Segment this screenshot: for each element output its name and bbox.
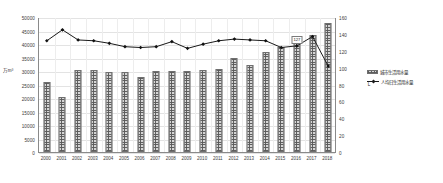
y-axis-left-tick-label: 40000 bbox=[0, 43, 35, 48]
x-axis-tick-label: 2001 bbox=[56, 156, 66, 161]
y-axis-left-tick-label: 25000 bbox=[0, 83, 35, 88]
chart-container: 万m³ L 0500010000150002000025000300003500… bbox=[0, 0, 443, 183]
line-swatch-icon bbox=[367, 79, 379, 84]
line-marker[interactable] bbox=[186, 47, 190, 51]
y-axis-left-tick-label: 35000 bbox=[0, 56, 35, 61]
y-axis-left-tick-label: 30000 bbox=[0, 70, 35, 75]
y-axis-left-tick-label: 20000 bbox=[0, 97, 35, 102]
chart-legend: 城市生活用水量 人均日生活用水量 bbox=[367, 69, 443, 88]
line-marker[interactable] bbox=[154, 45, 158, 49]
legend-item-bar[interactable]: 城市生活用水量 bbox=[367, 69, 443, 75]
gridline bbox=[39, 153, 335, 154]
line-marker[interactable] bbox=[139, 46, 143, 50]
x-axis-tick-label: 2000 bbox=[41, 156, 51, 161]
y-axis-right-tick-label: 100 bbox=[339, 66, 365, 71]
line-marker[interactable] bbox=[201, 42, 205, 46]
y-axis-right-tick-label: 160 bbox=[339, 16, 365, 21]
line-marker[interactable] bbox=[92, 39, 96, 43]
y-axis-right-tick-label: 20 bbox=[339, 134, 365, 139]
y-axis-right-tick-label: 40 bbox=[339, 117, 365, 122]
x-axis-tick-label: 2015 bbox=[275, 156, 285, 161]
data-label: 127 bbox=[291, 36, 302, 44]
plot-area: 127 bbox=[38, 18, 335, 153]
x-axis-tick-label: 2006 bbox=[135, 156, 145, 161]
x-axis-tick-label: 2004 bbox=[103, 156, 113, 161]
x-axis-tick-label: 2009 bbox=[181, 156, 191, 161]
x-axis-tick-label: 2008 bbox=[166, 156, 176, 161]
line-marker[interactable] bbox=[108, 41, 112, 45]
x-axis-tick-label: 2011 bbox=[213, 156, 223, 161]
y-axis-left-tick-label: 0 bbox=[0, 151, 35, 156]
x-axis-tick-label: 2018 bbox=[322, 156, 332, 161]
y-axis-right-tick-label: 140 bbox=[339, 32, 365, 37]
y-axis-left-tick-label: 45000 bbox=[0, 29, 35, 34]
x-axis-tick-label: 2007 bbox=[150, 156, 160, 161]
y-axis-right-tick-label: 120 bbox=[339, 49, 365, 54]
y-axis-left-tick-label: 10000 bbox=[0, 124, 35, 129]
right-axis-line bbox=[335, 18, 336, 153]
line-marker[interactable] bbox=[170, 40, 174, 44]
x-axis-tick-label: 2002 bbox=[72, 156, 82, 161]
x-axis-tick-label: 2012 bbox=[228, 156, 238, 161]
line-marker[interactable] bbox=[264, 39, 268, 43]
y-axis-right-tick-label: 60 bbox=[339, 100, 365, 105]
bar-swatch-icon bbox=[367, 70, 378, 74]
x-axis-tick-label: 2003 bbox=[88, 156, 98, 161]
line-marker[interactable] bbox=[123, 45, 127, 49]
line-marker[interactable] bbox=[279, 46, 283, 50]
x-axis-tick-label: 2005 bbox=[119, 156, 129, 161]
y-axis-right-tick-label: 80 bbox=[339, 83, 365, 88]
legend-label-line: 人均日生活用水量 bbox=[381, 79, 413, 85]
x-axis-tick-label: 2013 bbox=[244, 156, 254, 161]
line-marker[interactable] bbox=[233, 37, 237, 41]
x-axis-tick-label: 2017 bbox=[307, 156, 317, 161]
x-axis-tick-label: 2016 bbox=[291, 156, 301, 161]
y-axis-left-tick-label: 5000 bbox=[0, 137, 35, 142]
line-marker[interactable] bbox=[326, 64, 330, 68]
line-marker[interactable] bbox=[217, 39, 221, 43]
y-axis-right-tick-label: 0 bbox=[339, 151, 365, 156]
y-axis-left-tick-label: 15000 bbox=[0, 110, 35, 115]
legend-item-line[interactable]: 人均日生活用水量 bbox=[367, 79, 443, 85]
legend-label-bar: 城市生活用水量 bbox=[380, 69, 408, 75]
line-marker[interactable] bbox=[248, 38, 252, 42]
y-axis-left-tick-label: 50000 bbox=[0, 16, 35, 21]
x-axis-tick-label: 2014 bbox=[260, 156, 270, 161]
x-axis-tick-label: 2010 bbox=[197, 156, 207, 161]
